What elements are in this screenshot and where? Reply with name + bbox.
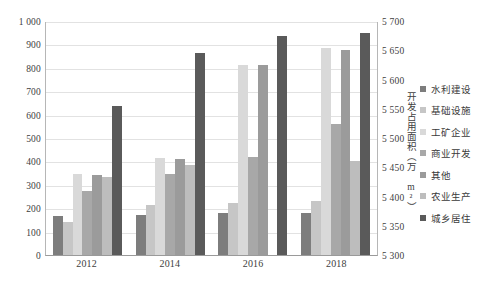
bar — [195, 53, 205, 255]
legend-swatch-icon — [420, 107, 426, 113]
bar — [360, 33, 370, 255]
right-axis-tick: 5 650 — [382, 46, 404, 56]
bar-group-2014 — [129, 22, 212, 255]
left-axis-tick: 700 — [26, 87, 41, 97]
legend-label: 城乡居住 — [431, 211, 471, 225]
category-label: 2018 — [295, 258, 378, 276]
right-axis-tick: 5 300 — [382, 251, 404, 261]
legend-swatch-icon — [420, 129, 426, 135]
bar — [175, 159, 185, 255]
legend-item[interactable]: 水利建设 — [420, 78, 494, 100]
bar — [341, 50, 351, 255]
bar — [136, 215, 146, 255]
legend-item[interactable]: 其他 — [420, 164, 494, 186]
bar — [165, 174, 175, 255]
category-label: 2016 — [212, 258, 295, 276]
bar-group-2012 — [46, 22, 129, 255]
category-label: 2014 — [128, 258, 211, 276]
left-value-axis: 1 0009008007006005004003002001000 — [0, 22, 41, 256]
bar-groups — [46, 22, 377, 255]
legend-swatch-icon — [420, 215, 426, 221]
left-axis-tick: 500 — [26, 134, 41, 144]
legend-item[interactable]: 工矿企业 — [420, 121, 494, 143]
legend-label: 水利建设 — [431, 82, 471, 96]
left-axis-tick: 800 — [26, 64, 41, 74]
legend-label: 商业开发 — [431, 146, 471, 160]
bar — [92, 175, 102, 255]
bar — [146, 205, 156, 255]
bar — [321, 48, 331, 255]
legend-swatch-icon — [420, 193, 426, 199]
legend-swatch-icon — [420, 172, 426, 178]
legend-label: 农业生产 — [431, 189, 471, 203]
legend-label: 其他 — [431, 168, 451, 182]
legend-label: 工矿企业 — [431, 125, 471, 139]
right-axis-tick: 5 350 — [382, 222, 404, 232]
left-axis-tick: 1 000 — [19, 17, 41, 27]
left-axis-tick: 200 — [26, 204, 41, 214]
left-axis-tick: 400 — [26, 157, 41, 167]
bar-group-2016 — [212, 22, 295, 255]
left-axis-tick: 600 — [26, 111, 41, 121]
left-axis-tick: 900 — [26, 40, 41, 50]
bar — [112, 106, 122, 255]
legend-item[interactable]: 城乡居住 — [420, 207, 494, 229]
left-axis-tick: 300 — [26, 181, 41, 191]
legend-swatch-icon — [420, 86, 426, 92]
legend-label: 基础设施 — [431, 103, 471, 117]
bar — [301, 213, 311, 255]
bar — [248, 157, 258, 255]
bar — [218, 213, 228, 255]
bar — [102, 177, 112, 255]
plot-area — [45, 22, 378, 256]
bar — [63, 222, 73, 255]
bar — [82, 191, 92, 255]
legend-swatch-icon — [420, 150, 426, 156]
bar — [331, 124, 341, 256]
legend-item[interactable]: 农业生产 — [420, 186, 494, 208]
bar-chart: 1 0009008007006005004003002001000 5 7005… — [0, 0, 496, 293]
bar — [350, 161, 360, 255]
category-label: 2012 — [45, 258, 128, 276]
right-axis-tick: 5 600 — [382, 76, 404, 86]
left-axis-tick: 0 — [36, 251, 41, 261]
bar-group-2018 — [294, 22, 377, 255]
bar — [185, 165, 195, 255]
bar — [311, 201, 321, 255]
legend-item[interactable]: 基础设施 — [420, 100, 494, 122]
bar — [228, 203, 238, 255]
bar — [258, 65, 268, 255]
right-axis-tick: 5 700 — [382, 17, 404, 27]
left-axis-tick: 100 — [26, 228, 41, 238]
right-axis-title: 开发占用面积（万 m²） — [402, 92, 416, 212]
bar — [155, 158, 165, 255]
category-axis: 2012201420162018 — [45, 258, 378, 276]
legend-item[interactable]: 商业开发 — [420, 143, 494, 165]
bar — [73, 174, 83, 255]
bar — [53, 216, 63, 255]
bar — [238, 65, 248, 255]
chart-legend: 水利建设基础设施工矿企业商业开发其他农业生产城乡居住 — [420, 78, 494, 229]
bar — [277, 36, 287, 255]
